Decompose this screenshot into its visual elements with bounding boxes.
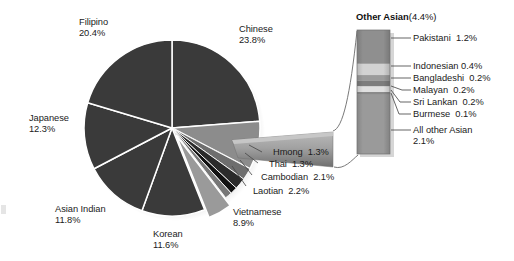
pie-label-japanese: Japanese12.3% (29, 113, 69, 135)
pie-label-chinese-pct: 23.8% (239, 35, 265, 45)
callout-legend-all-other-line1: All other Asian (413, 125, 472, 135)
callout-legend-all-other-asian: All other Asian2.1% (413, 125, 472, 147)
pie-label-asian-indian-pct: 11.8% (55, 215, 80, 225)
callout-legend-all-other-line2: 2.1% (413, 136, 434, 146)
callout-title: Other Asian(4.4%) (356, 11, 436, 22)
callout-title-bold: Other Asian (356, 11, 409, 22)
pie-label-vietnamese-pct: 8.9% (233, 218, 254, 228)
callout-legend-malayan: Malayan 0.2% (413, 85, 475, 96)
chart-canvas: Filipino20.4% Chinese23.8% Japanese12.3%… (0, 0, 514, 261)
pie-label-thai: Thai 1.3% (269, 159, 313, 170)
pie-label-vietnamese-name: Vietnamese (233, 207, 281, 217)
pie-label-chinese: Chinese23.8% (239, 24, 273, 46)
callout-legend-pakistani: Pakistani 1.2% (413, 33, 477, 44)
pie-label-vietnamese: Vietnamese8.9% (233, 207, 281, 229)
pie-label-japanese-name: Japanese (29, 113, 69, 123)
callout-legend-burmese: Burmese 0.1% (413, 109, 477, 120)
pie-label-korean-name: Korean (153, 229, 183, 239)
pie-slice (172, 40, 260, 128)
pie-label-asian-indian-name: Asian Indian (55, 204, 106, 214)
pie-label-laotian: Laotian 2.2% (253, 186, 309, 197)
callout-legend-indonesian: Indonesian 0.4% (413, 61, 482, 72)
pie-label-hmong: Hmong 1.3% (273, 147, 329, 158)
callout-title-pct: (4.4%) (409, 11, 437, 22)
pie-label-filipino-pct: 20.4% (79, 28, 105, 38)
pie-label-japanese-pct: 12.3% (29, 124, 55, 134)
pie-label-korean: Korean11.6% (153, 229, 183, 251)
pie-label-cambodian: Cambodian 2.1% (261, 172, 334, 183)
pie-label-filipino: Filipino20.4% (79, 17, 108, 39)
callout-legend-sri-lankan: Sri Lankan 0.2% (413, 97, 484, 108)
callout-legend-bangladeshi: Bangladeshi 0.2% (413, 73, 491, 84)
pie-label-korean-pct: 11.6% (153, 240, 178, 250)
pie-label-chinese-name: Chinese (239, 24, 273, 34)
pie-label-asian-indian: Asian Indian11.8% (55, 204, 106, 226)
pie-label-filipino-name: Filipino (79, 17, 108, 27)
